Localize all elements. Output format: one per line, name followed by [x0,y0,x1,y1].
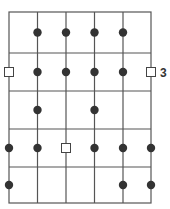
filled-dot [119,68,127,76]
filled-dot [33,28,41,36]
filled-dot [90,68,98,76]
filled-dot [147,144,155,152]
filled-dot [90,28,98,36]
grid-lines [9,12,151,203]
row-labels: 3 [160,66,167,80]
row-label: 3 [160,66,167,80]
filled-dot [147,181,155,189]
filled-dot [62,68,70,76]
filled-dot [119,181,127,189]
filled-dot [119,28,127,36]
filled-dot [119,144,127,152]
open-square [5,68,14,77]
filled-dot [5,144,13,152]
open-square [147,68,156,77]
dot-grid-diagram: 3 [0,0,170,209]
filled-dot [33,106,41,114]
filled-dot [33,144,41,152]
open-square [62,144,71,153]
filled-dot [5,181,13,189]
filled-dot [62,28,70,36]
grid-border [9,12,151,203]
filled-dot [90,144,98,152]
filled-dot [33,68,41,76]
filled-dot [90,106,98,114]
